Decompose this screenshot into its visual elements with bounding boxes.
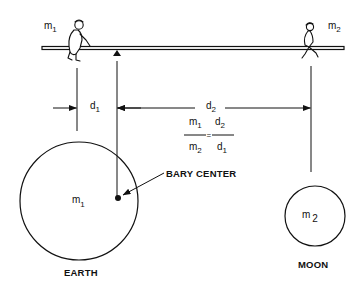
barycenter-formula: m1 m2 = d2 d1 <box>184 116 234 155</box>
left-person-icon <box>68 20 90 61</box>
d2-label: d2 <box>206 100 217 114</box>
d1-dimension: d1 <box>53 100 141 114</box>
moon-mass-label: m2 <box>302 209 318 224</box>
formula-m1: m1 <box>189 116 202 130</box>
seesaw-plank <box>42 47 344 50</box>
barycenter-label: BARY CENTER <box>166 168 236 179</box>
barycenter-dot <box>115 195 121 201</box>
moon: m2 MOON <box>285 186 345 270</box>
fulcrum-icon <box>113 50 121 56</box>
formula-d1: d1 <box>217 141 228 155</box>
earth: m1 EARTH <box>20 142 138 278</box>
right-person-mass-label: m2 <box>328 20 341 34</box>
earth-caption: EARTH <box>64 267 98 278</box>
formula-equals: = <box>207 131 212 140</box>
d2-dimension: d2 <box>118 100 311 114</box>
earth-mass-label: m1 <box>72 194 85 209</box>
barycenter-pointer <box>123 173 164 195</box>
left-person-mass-label: m1 <box>44 20 57 34</box>
right-person-icon <box>302 23 318 58</box>
barycenter-diagram: m1 m2 d1 d2 m1 m2 = <box>0 0 362 285</box>
moon-caption: MOON <box>298 259 328 270</box>
formula-m2: m2 <box>189 141 202 155</box>
formula-d2: d2 <box>215 116 226 130</box>
d1-label: d1 <box>90 100 101 114</box>
seesaw <box>42 47 344 57</box>
